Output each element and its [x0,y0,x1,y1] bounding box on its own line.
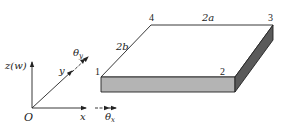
width-label: 2b [115,41,129,52]
theta-x-arrowhead-icon [104,106,110,110]
plate-element-diagram: z(w) O x y θy θx 1 2 3 4 2a 2b [0,0,286,130]
theta-x-label: θx [105,111,115,124]
x-axis-label: x [80,111,86,122]
corner-4-label: 4 [149,12,154,23]
z-axis-label: z(w) [4,60,27,71]
corner-1-label: 1 [95,66,100,77]
plate-front-face [101,77,235,92]
length-label: 2a [201,12,214,23]
theta-y-label: θy [73,47,84,60]
y-axis [32,71,72,108]
plate [101,25,273,92]
corner-3-label: 3 [268,12,273,23]
origin-label: O [24,111,33,124]
y-axis-label: y [58,65,65,76]
corner-2-label: 2 [220,66,225,77]
